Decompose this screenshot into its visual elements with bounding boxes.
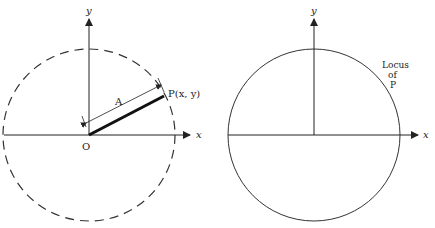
y-axis-label: y xyxy=(85,5,92,16)
point-label: P(x, y) xyxy=(168,88,200,99)
locus-label-line-1: Locus xyxy=(382,60,409,70)
diagram-canvas: A P(x, y) O y x y x Locus of P xyxy=(0,0,435,228)
locus-label-line-2: of xyxy=(388,70,397,80)
dimension-tick-start xyxy=(82,116,86,127)
locus-label-line-3: P xyxy=(390,80,396,90)
y-axis-label: y xyxy=(310,5,317,16)
x-axis-label: x xyxy=(196,129,202,140)
origin-label: O xyxy=(82,141,90,152)
left-figure: A P(x, y) O y x xyxy=(3,5,202,221)
radius-label: A xyxy=(114,96,123,107)
right-figure: y x Locus of P xyxy=(228,5,429,221)
x-axis-label: x xyxy=(423,129,429,140)
